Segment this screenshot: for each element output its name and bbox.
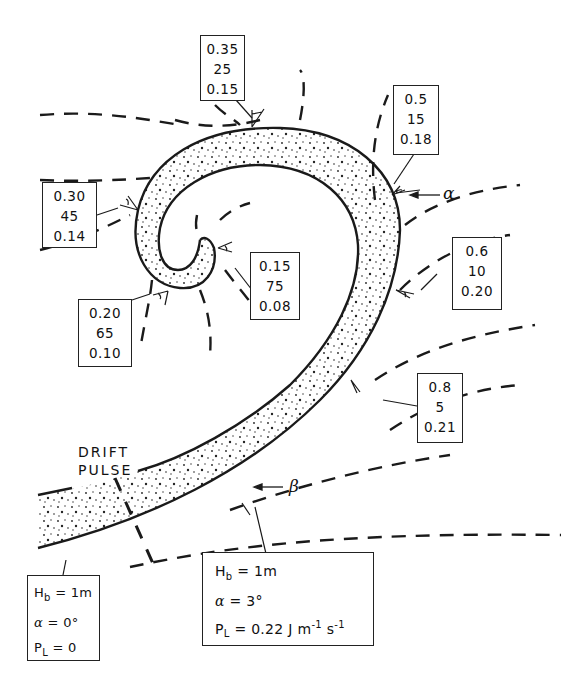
box-value-3: 0.10 [79, 343, 131, 363]
box-value-1: 0.30 [43, 186, 96, 206]
box-value-1: 0.35 [201, 39, 244, 59]
annotation-box-lower-right: 0.8 5 0.21 [417, 373, 463, 443]
annotation-box-top: 0.35 25 0.15 [200, 35, 245, 101]
box-value-2: 75 [251, 276, 299, 296]
param-hb-row: Hb = 1m [215, 559, 363, 589]
box-value-1: 0.6 [453, 241, 501, 261]
box-value-3: 0.21 [418, 417, 462, 437]
annotation-box-upper-right: 0.5 15 0.18 [393, 85, 439, 155]
param-alpha-row: α = 0° [34, 610, 93, 635]
param-alpha-row: α = 3° [215, 589, 363, 613]
param-box-right: Hb = 1m α = 3° PL = 0.22 J m-1 s-1 [202, 552, 374, 646]
box-value-1: 0.15 [251, 256, 299, 276]
param-pl-row: PL = 0 [34, 635, 93, 665]
param-box-left: Hb = 1m α = 0° PL = 0 [27, 575, 100, 661]
box-value-2: 65 [79, 323, 131, 343]
box-value-1: 0.20 [79, 303, 131, 323]
box-value-2: 25 [201, 59, 244, 79]
arrow-alpha [410, 192, 440, 198]
annotation-box-inner: 0.15 75 0.08 [250, 252, 300, 320]
box-value-2: 5 [418, 397, 462, 417]
param-hb-row: Hb = 1m [34, 580, 93, 610]
param-pl-row: PL = 0.22 J m-1 s-1 [215, 613, 363, 646]
arrow-beta [254, 484, 283, 490]
box-value-3: 0.18 [394, 129, 438, 149]
box-value-1: 0.8 [418, 377, 462, 397]
annotation-box-right: 0.6 10 0.20 [452, 237, 502, 310]
box-value-1: 0.5 [394, 89, 438, 109]
alpha-label: α [443, 183, 454, 203]
box-value-3: 0.15 [201, 79, 244, 99]
annotation-box-lower-left: 0.20 65 0.10 [78, 299, 132, 367]
box-value-3: 0.14 [43, 226, 96, 246]
beta-label: β [289, 476, 299, 496]
box-value-2: 15 [394, 109, 438, 129]
box-value-3: 0.20 [453, 281, 501, 301]
box-value-3: 0.08 [251, 296, 299, 316]
box-value-2: 10 [453, 261, 501, 281]
drift-label-line2: PULSE [78, 461, 132, 479]
drift-pulse-label: DRIFT PULSE [78, 443, 132, 479]
box-value-2: 45 [43, 206, 96, 226]
annotation-box-left: 0.30 45 0.14 [42, 182, 97, 248]
drift-label-line1: DRIFT [78, 443, 132, 461]
